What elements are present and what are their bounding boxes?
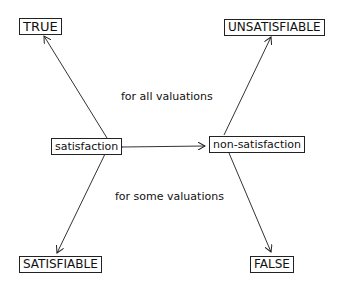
node-satisfiable: SATISFIABLE xyxy=(19,256,102,273)
node-false: FALSE xyxy=(250,256,294,273)
edge-satisfaction-true xyxy=(44,36,107,138)
label-for-some-valuations: for some valuations xyxy=(115,190,224,203)
node-satisfaction: satisfaction xyxy=(51,138,122,155)
node-true: TRUE xyxy=(19,18,62,35)
node-non-satisfaction: non-satisfaction xyxy=(209,136,305,153)
edge-sat-nonsat xyxy=(122,146,205,147)
edge-satisfaction-satisfiable xyxy=(57,154,105,253)
diagram: TRUE UNSATISFIABLE for all valuations sa… xyxy=(0,0,342,289)
label-for-all-valuations: for all valuations xyxy=(121,90,213,103)
edge-nonsat-unsat xyxy=(224,37,271,135)
node-unsatisfiable: UNSATISFIABLE xyxy=(224,19,325,36)
edge-nonsat-false xyxy=(229,153,271,252)
